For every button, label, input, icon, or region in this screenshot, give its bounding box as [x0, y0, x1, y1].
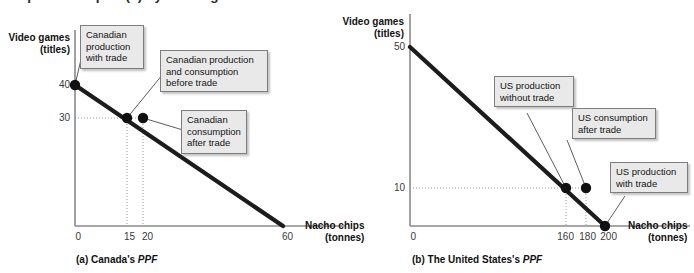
us-y-axis-title: Video games (titles)	[340, 16, 404, 40]
point-us-consumption-after-trade	[581, 183, 591, 193]
canada-ytick-40: 40	[52, 79, 70, 90]
canada-y-axis-title-main: Video games	[6, 32, 70, 44]
us-y-axis-title-unit: (titles)	[340, 28, 404, 40]
canada-x-axis-title: Nacho chips (tonnes)	[305, 220, 364, 244]
canada-ytick-30: 30	[52, 112, 70, 123]
canada-caption-prefix: (a)	[76, 254, 88, 265]
canada-caption-text: Canada's	[91, 254, 135, 265]
point-canadian-production-with-trade	[70, 80, 80, 90]
us-origin-label: 0	[402, 231, 416, 242]
canada-y-axis-title-unit: (titles)	[6, 44, 70, 56]
canada-xtick-60: 60	[277, 231, 293, 242]
point-canadian-consumption-after-trade	[138, 113, 148, 123]
us-x-axis-title-main: Nacho chips	[628, 220, 687, 232]
chart-canada-datapoints	[70, 80, 148, 123]
canada-caption: (a) Canada's PPF	[76, 254, 157, 265]
us-caption-italic: PPF	[523, 254, 542, 265]
us-caption-text: The United States's	[428, 254, 520, 265]
us-x-axis-title: Nacho chips (tonnes)	[628, 220, 687, 244]
callout-canadian-consumption-after-trade: Canadian consumption after trade	[181, 110, 247, 154]
us-y-axis-title-main: Video games	[340, 16, 404, 28]
point-canadian-production-and-consumption-before-trade	[122, 113, 132, 123]
canada-xtick-15: 15	[119, 231, 135, 242]
callout-canadian-production-and-consumption-before-trade: Canadian production and consumption befo…	[160, 50, 268, 92]
canada-caption-italic: PPF	[138, 254, 157, 265]
us-xtick-200: 200	[597, 231, 617, 242]
us-x-axis-title-unit: (tonnes)	[628, 232, 687, 244]
figure-root: Step 4 Shade part (c) by drawing the lin…	[0, 0, 694, 273]
canada-x-axis-title-unit: (tonnes)	[305, 232, 364, 244]
canada-y-axis-title: Video games (titles)	[6, 32, 70, 56]
us-xtick-180: 180	[576, 231, 596, 242]
us-xtick-160: 160	[554, 231, 574, 242]
chart-us-guides	[410, 188, 586, 226]
callout-us-consumption-after-trade: US consumption after trade	[572, 108, 656, 139]
canada-ppf-line	[75, 85, 283, 226]
us-caption-prefix: (b)	[412, 254, 425, 265]
us-caption: (b) The United States's PPF	[412, 254, 542, 265]
callout-us-production-with-trade: US production with trade	[610, 162, 688, 193]
chart-canada-guides	[75, 118, 143, 226]
callout-us-production-without-trade: US production without trade	[494, 76, 574, 107]
us-ytick-50: 50	[387, 41, 405, 52]
canada-xtick-20: 20	[137, 231, 153, 242]
point-us-production-without-trade	[561, 183, 571, 193]
callout-canadian-production-with-trade: Canadian production with trade	[80, 25, 144, 69]
canada-origin-label: 0	[67, 231, 81, 242]
us-ytick-10: 10	[387, 182, 405, 193]
point-us-production-with-trade	[600, 221, 610, 231]
canada-x-axis-title-main: Nacho chips	[305, 220, 364, 232]
